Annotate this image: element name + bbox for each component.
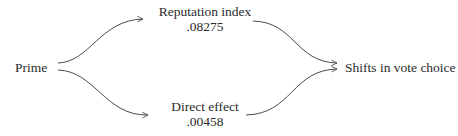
node-reputation-index: Reputation index .08275	[155, 4, 255, 34]
node-direct-effect: Direct effect .00458	[155, 99, 255, 129]
node-reputation-index-value: .08275	[155, 19, 255, 34]
node-shifts-in-vote-choice-label: Shifts in vote choice	[345, 60, 456, 75]
node-prime: Prime	[15, 60, 47, 75]
edge-reputation-to-shifts	[253, 21, 337, 63]
node-prime-label: Prime	[15, 60, 47, 75]
edge-prime-to-direct	[58, 70, 148, 115]
node-shifts-in-vote-choice: Shifts in vote choice	[345, 60, 456, 75]
node-reputation-index-label: Reputation index	[155, 4, 255, 19]
edge-direct-to-shifts	[246, 69, 337, 115]
node-direct-effect-value: .00458	[155, 114, 255, 129]
mediation-diagram: Prime Reputation index .08275 Direct eff…	[0, 0, 458, 136]
edge-prime-to-reputation	[58, 19, 143, 63]
node-direct-effect-label: Direct effect	[155, 99, 255, 114]
